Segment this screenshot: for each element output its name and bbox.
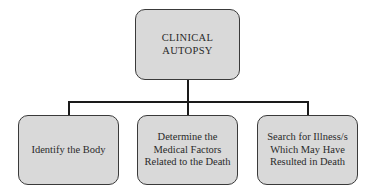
child2-label-line-2: Medical Factors bbox=[144, 144, 230, 157]
connector-right-drop bbox=[307, 101, 309, 115]
child-node-label: Identify the Body bbox=[31, 144, 105, 157]
connector-left-drop bbox=[68, 101, 70, 115]
root-node-label: CLINICAL AUTOPSY bbox=[162, 32, 213, 57]
child-node-medical-factors: Determine the Medical Factors Related to… bbox=[137, 115, 238, 185]
connector-horizontal-bar bbox=[68, 101, 309, 103]
child2-label-line-3: Related to the Death bbox=[144, 156, 230, 169]
child-node-search-illness: Search for Illness/s Which May Have Resu… bbox=[257, 115, 358, 185]
child-node-label: Search for Illness/s Which May Have Resu… bbox=[267, 131, 347, 169]
root-label-line-1: CLINICAL bbox=[162, 32, 213, 45]
connector-middle-drop bbox=[187, 101, 189, 115]
root-label-line-2: AUTOPSY bbox=[162, 45, 213, 58]
child2-label-line-1: Determine the bbox=[144, 131, 230, 144]
connector-root-stem bbox=[187, 80, 189, 102]
child1-label-line-1: Identify the Body bbox=[31, 144, 105, 157]
child3-label-line-3: Resulted in Death bbox=[267, 156, 347, 169]
child-node-identify-body: Identify the Body bbox=[18, 115, 119, 185]
child-node-label: Determine the Medical Factors Related to… bbox=[144, 131, 230, 169]
child3-label-line-2: Which May Have bbox=[267, 144, 347, 157]
child3-label-line-1: Search for Illness/s bbox=[267, 131, 347, 144]
root-node-clinical-autopsy: CLINICAL AUTOPSY bbox=[135, 9, 240, 80]
